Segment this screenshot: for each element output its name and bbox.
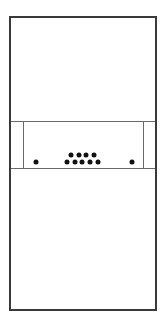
cluster-dot-bottom: [88, 160, 93, 165]
cluster-dot-top: [69, 153, 74, 158]
cluster-dot-bottom: [73, 160, 78, 165]
band-bottom-line: [11, 168, 155, 169]
cluster-dot-bottom: [80, 160, 85, 165]
cluster-dot-top: [77, 153, 82, 158]
cluster-dot-top: [84, 153, 89, 158]
cluster-dot-bottom: [96, 160, 101, 165]
cluster-dot-bottom: [65, 160, 70, 165]
right-dot: [130, 160, 135, 165]
band-top-line: [11, 121, 155, 122]
left-dot: [34, 160, 39, 165]
cluster-dot-top: [92, 153, 97, 158]
inner-box-left-line: [23, 121, 24, 168]
inner-box-right-line: [143, 121, 144, 168]
